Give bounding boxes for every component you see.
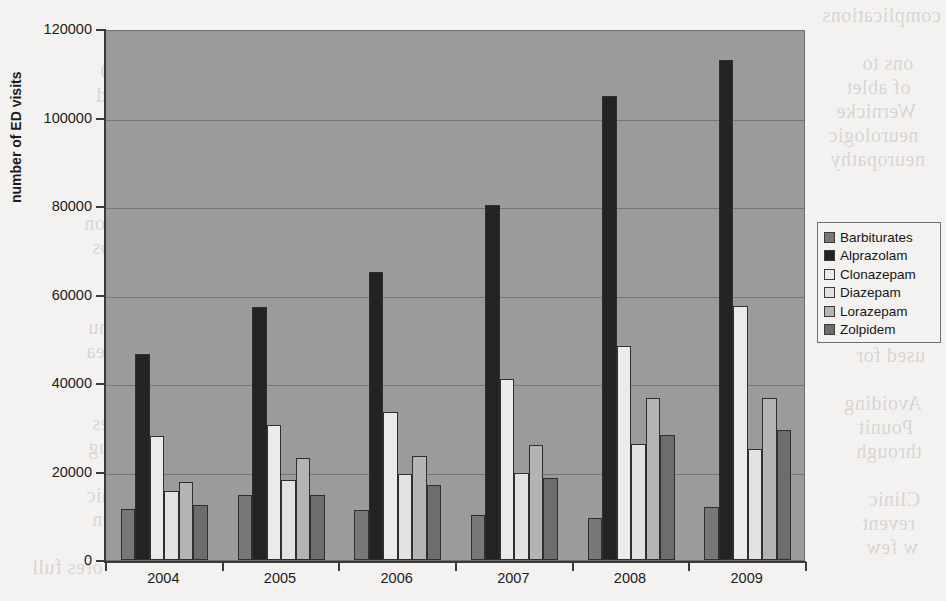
y-tick-label-wrap: 40000 xyxy=(0,375,92,393)
bar xyxy=(427,485,442,560)
bar xyxy=(164,491,179,560)
bar xyxy=(733,306,748,560)
legend-item[interactable]: Lorazepam xyxy=(824,302,935,321)
bar xyxy=(369,272,384,561)
legend-swatch-icon xyxy=(824,232,835,243)
y-tick-label-wrap: 60000 xyxy=(0,287,92,305)
bar xyxy=(485,205,500,560)
legend-swatch-icon xyxy=(824,306,835,317)
legend-item[interactable]: Barbiturates xyxy=(824,228,935,247)
bleed-text: Avoiding xyxy=(844,392,922,415)
legend-swatch-icon xyxy=(824,324,835,335)
bar xyxy=(412,456,427,560)
legend-label: Lorazepam xyxy=(840,304,908,319)
bleed-text: neurologic xyxy=(828,124,919,147)
bleed-text: Clinic xyxy=(868,488,920,511)
bar xyxy=(121,509,136,560)
bar xyxy=(471,515,486,560)
legend-label: Clonazepam xyxy=(840,267,916,282)
gridline xyxy=(106,385,804,386)
y-tick-label: 60000 xyxy=(6,287,92,303)
y-tick-mark xyxy=(96,29,105,31)
legend-item[interactable]: Clonazepam xyxy=(824,265,935,284)
y-tick-label: 0 xyxy=(6,552,92,568)
bar xyxy=(514,473,529,560)
bar xyxy=(398,474,413,560)
bar xyxy=(631,444,646,560)
y-tick-label: 40000 xyxy=(6,375,92,391)
bleed-text: Pounit xyxy=(858,416,913,439)
bar xyxy=(281,480,296,560)
bleed-text: of ablet xyxy=(846,76,911,99)
bar xyxy=(777,430,792,560)
bar xyxy=(602,96,617,560)
bar xyxy=(238,495,253,560)
bleed-text: neuropathy xyxy=(830,148,925,171)
legend-label: Diazepam xyxy=(840,285,901,300)
x-tick-label: 2006 xyxy=(337,570,457,586)
y-tick-mark xyxy=(96,295,105,297)
plot-area xyxy=(105,30,805,561)
x-tick-label: 2009 xyxy=(687,570,807,586)
gridline xyxy=(106,120,804,121)
bar xyxy=(529,445,544,560)
legend-label: Zolpidem xyxy=(840,322,896,337)
x-tick-label: 2005 xyxy=(220,570,340,586)
y-tick-mark xyxy=(96,472,105,474)
y-tick-mark xyxy=(96,560,105,562)
bar xyxy=(193,505,208,560)
legend-item[interactable]: Alprazolam xyxy=(824,247,935,266)
bleed-text: revent xyxy=(862,512,915,535)
bar xyxy=(135,354,150,560)
x-tick-label: 2008 xyxy=(570,570,690,586)
bar xyxy=(310,495,325,560)
y-tick-label-wrap: 0 xyxy=(0,552,92,570)
bar xyxy=(296,458,311,560)
legend-swatch-icon xyxy=(824,269,835,280)
bleed-text: ons to xyxy=(862,52,913,75)
y-tick-label-wrap: 20000 xyxy=(0,464,92,482)
bar xyxy=(267,425,282,560)
bar xyxy=(150,436,165,560)
chart-page: complicationsons toof abletWernickeneuro… xyxy=(0,0,946,601)
legend-swatch-icon xyxy=(824,287,835,298)
bar xyxy=(179,482,194,560)
bar xyxy=(383,412,398,560)
gridline xyxy=(106,474,804,475)
bar xyxy=(588,518,603,560)
bar xyxy=(704,507,719,560)
y-tick-label: 20000 xyxy=(6,464,92,480)
legend-label: Alprazolam xyxy=(840,248,908,263)
bar xyxy=(748,449,763,561)
x-tick-label: 2007 xyxy=(453,570,573,586)
chart-legend: BarbituratesAlprazolamClonazepamDiazepam… xyxy=(817,222,941,343)
y-tick-mark xyxy=(96,383,105,385)
bar xyxy=(354,510,369,560)
bleed-text: w few xyxy=(866,536,918,559)
legend-swatch-icon xyxy=(824,250,835,261)
bleed-text: Wernicke xyxy=(836,100,916,123)
gridline xyxy=(106,297,804,298)
bar xyxy=(543,478,558,560)
bleed-text: used for xyxy=(856,344,925,367)
legend-label: Barbiturates xyxy=(840,230,913,245)
x-tick-mark xyxy=(805,562,807,571)
bar xyxy=(719,60,734,560)
bleed-text: through xyxy=(856,440,922,463)
y-axis-title: number of ED visits xyxy=(8,0,24,203)
x-tick-label: 2004 xyxy=(103,570,223,586)
legend-item[interactable]: Zolpidem xyxy=(824,321,935,340)
bleed-text: complications xyxy=(822,4,941,27)
gridline xyxy=(106,208,804,209)
bar xyxy=(252,307,267,560)
bar xyxy=(617,346,632,560)
bar xyxy=(500,379,515,560)
y-tick-mark xyxy=(96,206,105,208)
y-tick-mark xyxy=(96,118,105,120)
bar xyxy=(660,435,675,560)
bar xyxy=(762,398,777,560)
bar xyxy=(646,398,661,560)
legend-item[interactable]: Diazepam xyxy=(824,284,935,303)
